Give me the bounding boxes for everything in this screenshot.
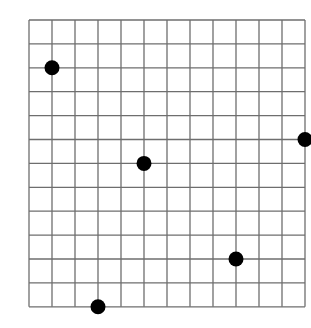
dot-grid-diagram: [0, 0, 311, 328]
grid-point: [45, 60, 60, 75]
grid-point: [229, 252, 244, 267]
grid-point: [91, 299, 106, 314]
grid-point: [137, 156, 152, 171]
